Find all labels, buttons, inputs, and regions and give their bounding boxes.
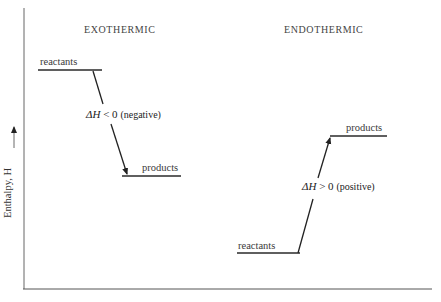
exo-delta-h: ΔH < 0 (negative) (86, 108, 161, 120)
diagram-canvas (0, 0, 441, 302)
exothermic-title: EXOTHERMIC (84, 24, 156, 35)
endothermic-title: ENDOTHERMIC (284, 24, 363, 35)
exo-arrow-upper (93, 71, 103, 104)
exo-reactants-label: reactants (40, 56, 77, 67)
delta-h-note: (positive) (336, 181, 374, 192)
delta-h-symbol: ΔH (302, 180, 316, 192)
exo-arrow-icon (111, 124, 127, 174)
endo-arrow-icon (318, 138, 330, 178)
y-axis-label: Enthalpy, H (2, 168, 13, 218)
delta-h-symbol: ΔH (86, 108, 100, 120)
endo-arrow-lower (298, 199, 313, 253)
endo-products-label: products (346, 122, 382, 133)
delta-h-note: (negative) (120, 109, 161, 120)
delta-h-relation: > 0 (319, 180, 333, 192)
endo-delta-h: ΔH > 0 (positive) (302, 180, 375, 192)
endo-reactants-label: reactants (238, 240, 275, 251)
exo-products-label: products (142, 162, 178, 173)
delta-h-relation: < 0 (103, 108, 117, 120)
